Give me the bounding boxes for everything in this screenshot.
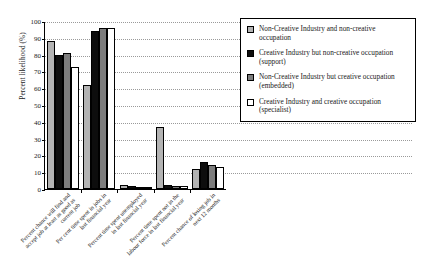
bar[interactable] xyxy=(120,185,128,189)
bar-group xyxy=(190,22,226,189)
legend-swatch-icon xyxy=(247,99,254,106)
chart-figure: Percent likelihood (%) 01020304050607080… xyxy=(0,0,430,280)
legend-item-label: Creative Industry but non-creative occup… xyxy=(259,49,409,66)
bar-group xyxy=(117,22,153,189)
bar[interactable] xyxy=(144,187,152,189)
bar[interactable] xyxy=(180,186,188,189)
bar[interactable] xyxy=(164,185,172,189)
bar[interactable] xyxy=(216,167,224,189)
bar[interactable] xyxy=(107,28,115,189)
y-tick-label: 90 xyxy=(34,35,45,43)
legend-item[interactable]: Non-Creative Industry but creative occup… xyxy=(247,73,409,90)
bar[interactable] xyxy=(83,85,91,189)
y-tick-label: 80 xyxy=(34,52,45,60)
plot-area: 0102030405060708090100 xyxy=(44,22,226,190)
bar[interactable] xyxy=(208,165,216,189)
y-tick-label: 20 xyxy=(34,152,45,160)
legend-item[interactable]: Creative Industry and creative occupatio… xyxy=(247,98,409,115)
bar[interactable] xyxy=(63,53,71,189)
y-tick-label: 100 xyxy=(31,18,46,26)
bar-groups xyxy=(45,22,226,189)
y-axis-title: Percent likelihood (%) xyxy=(19,6,27,126)
y-tick-label: 40 xyxy=(34,119,45,127)
y-tick-label: 30 xyxy=(34,136,45,144)
legend-item-label: Non-Creative Industry but creative occup… xyxy=(259,73,409,90)
bar-group xyxy=(154,22,190,189)
legend-item[interactable]: Creative Industry but non-creative occup… xyxy=(247,49,409,66)
bar-group xyxy=(45,22,81,189)
legend-swatch-icon xyxy=(247,50,254,57)
y-tick-label: 50 xyxy=(34,102,45,110)
bar[interactable] xyxy=(200,162,208,189)
legend-swatch-icon xyxy=(247,74,254,81)
legend: Non-Creative Industry and non-creative o… xyxy=(240,18,416,122)
legend-item[interactable]: Non-Creative Industry and non-creative o… xyxy=(247,25,409,42)
bar-group xyxy=(81,22,117,189)
x-axis-labels: Percent chance will find and accept job … xyxy=(44,192,226,280)
bar[interactable] xyxy=(136,187,144,189)
bar[interactable] xyxy=(156,127,164,189)
bar[interactable] xyxy=(192,169,200,189)
y-tick-label: 10 xyxy=(34,169,45,177)
bar[interactable] xyxy=(91,31,99,189)
legend-item-label: Non-Creative Industry and non-creative o… xyxy=(259,25,409,42)
y-tick-label: 70 xyxy=(34,68,45,76)
legend-item-label: Creative Industry and creative occupatio… xyxy=(259,98,409,115)
bar[interactable] xyxy=(71,67,79,189)
bar[interactable] xyxy=(128,186,136,189)
legend-swatch-icon xyxy=(247,26,254,33)
bar[interactable] xyxy=(172,186,180,189)
bar[interactable] xyxy=(99,28,107,189)
bar[interactable] xyxy=(55,55,63,189)
y-tick-label: 60 xyxy=(34,85,45,93)
bar[interactable] xyxy=(47,41,55,189)
